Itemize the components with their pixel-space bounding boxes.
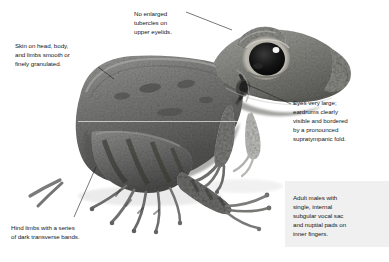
callout-hind-limbs: Hind limbs with a series of dark transve… [11,223,119,241]
leader-skin [98,67,114,79]
callout-eyes: Eyes very large; eardrums clearly visibl… [293,98,379,143]
callout-skin: Skin on head, body, and limbs smooth or … [15,41,107,68]
callout-tubercles: No enlarged tubercles on upper eyelids. [134,9,204,36]
leader-eyes [246,84,291,104]
callout-adult-males: Adult males with single, internal subgul… [293,193,373,238]
leader-hind [74,167,96,217]
annotated-frog-figure: No enlarged tubercles on upper eyelids. … [0,0,389,262]
